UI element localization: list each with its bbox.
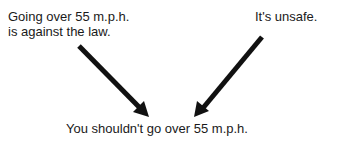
conclusion: You shouldn't go over 55 m.p.h. [66, 121, 248, 136]
arrow-down-left-icon [194, 37, 262, 117]
arrow-down-right-icon [79, 46, 149, 117]
